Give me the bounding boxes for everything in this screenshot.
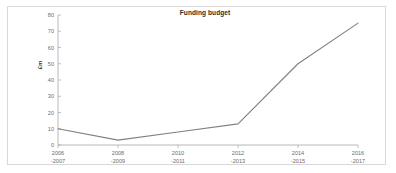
chart-title: Funding budget <box>150 9 260 16</box>
axis-lines <box>58 15 358 145</box>
x-tick-label-line2: -2013 <box>218 158 258 166</box>
x-tick-label-line2: -2011 <box>158 158 198 166</box>
line-chart-plot <box>0 0 396 173</box>
x-tick-label: 2006 -2007 <box>38 150 78 165</box>
x-tick-label-line1: 2014 <box>292 150 304 156</box>
y-tick-label: 50 <box>40 61 54 67</box>
x-tick-label: 2010 -2011 <box>158 150 198 165</box>
x-tick-label-line1: 2010 <box>172 150 184 156</box>
x-tick-label: 2016 -2017 <box>338 150 378 165</box>
y-tick-label: 0 <box>40 142 54 148</box>
x-tick-label-line2: -2007 <box>38 158 78 166</box>
x-tick-label: 2014 -2015 <box>278 150 318 165</box>
y-tick-label: 30 <box>40 93 54 99</box>
x-tick-marks <box>58 145 358 148</box>
x-tick-label-line1: 2012 <box>232 150 244 156</box>
x-tick-label-line1: 2006 <box>52 150 64 156</box>
y-tick-label: 40 <box>40 77 54 83</box>
y-tick-label: 60 <box>40 45 54 51</box>
x-tick-label: 2012 -2013 <box>218 150 258 165</box>
y-tick-label: 80 <box>40 12 54 18</box>
x-tick-label-line1: 2016 <box>352 150 364 156</box>
data-series-line <box>58 23 358 140</box>
y-tick-label: 20 <box>40 110 54 116</box>
y-tick-label: 70 <box>40 28 54 34</box>
x-tick-label-line2: -2009 <box>98 158 138 166</box>
y-tick-label: 10 <box>40 126 54 132</box>
x-tick-label: 2008 -2009 <box>98 150 138 165</box>
x-tick-label-line2: -2017 <box>338 158 378 166</box>
y-tick-marks <box>58 15 61 145</box>
x-tick-label-line1: 2008 <box>112 150 124 156</box>
x-tick-label-line2: -2015 <box>278 158 318 166</box>
